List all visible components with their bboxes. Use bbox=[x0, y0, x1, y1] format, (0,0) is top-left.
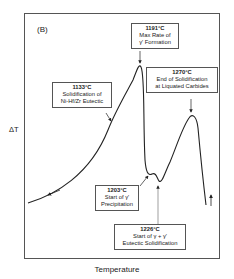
annotation-1226: 1226°C Start of γ + γ' Eutectic Solidifi… bbox=[114, 224, 186, 250]
annotation-temp: 1226°C bbox=[117, 226, 183, 233]
annotation-temp: 1133°C bbox=[55, 84, 109, 91]
annotation-line: Ni-Hf/Zr Eutectic bbox=[61, 98, 104, 104]
annotation-line: γ' Formation bbox=[139, 39, 171, 45]
annotation-line: Eutectic Solidification bbox=[123, 240, 178, 246]
annotation-line: Precipitation bbox=[101, 201, 133, 207]
annotation-1270: 1270°C End of Solidification at Liquated… bbox=[146, 67, 218, 93]
annotation-temp: 1191°C bbox=[134, 25, 176, 32]
annotation-1203: 1203°C Start of γ' Precipitation bbox=[95, 185, 139, 211]
annotation-line: End of Solidification bbox=[157, 76, 208, 82]
annotation-temp: 1270°C bbox=[149, 69, 215, 76]
annotation-line: Max Rate of bbox=[139, 32, 170, 38]
annotation-1133: 1133°C Solidification of Ni-Hf/Zr Eutect… bbox=[52, 82, 112, 108]
annotation-line: at Liquated Carbides bbox=[155, 83, 209, 89]
annotation-1191: 1191°C Max Rate of γ' Formation bbox=[131, 23, 179, 49]
cooling-direction-arrow bbox=[48, 190, 60, 195]
annotation-line: Solidification of bbox=[63, 91, 102, 97]
annotation-temp: 1203°C bbox=[98, 187, 136, 194]
annotation-line: Start of γ' bbox=[105, 194, 129, 200]
annotation-line: Start of γ + γ' bbox=[133, 233, 167, 239]
